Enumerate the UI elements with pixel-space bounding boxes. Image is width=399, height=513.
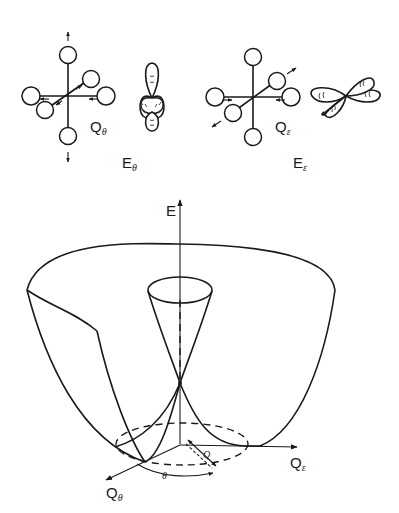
ligand-left: [22, 87, 40, 105]
ligand-left: [206, 88, 224, 106]
lower-sheet-right: [180, 383, 245, 446]
q-theta-axis-label: Qθ: [106, 484, 123, 503]
ligand-back: [83, 71, 100, 88]
orbital-lobe-bottom: [146, 112, 159, 131]
bowl-wall-right: [260, 290, 335, 446]
orbital-label-e-theta: Eθ: [122, 154, 137, 173]
orbital-label-e-epsilon: Eε: [293, 154, 307, 173]
angle-theta-arc: [137, 464, 213, 476]
q-epsilon-axis-label: Qε: [290, 454, 306, 473]
jahn-teller-diagram: Qθ Eθ Qε: [0, 0, 399, 513]
radius-label: Q: [203, 449, 211, 460]
ligand-top: [245, 49, 262, 66]
ligand-front: [225, 105, 242, 122]
octahedron-q-epsilon: Qε: [206, 49, 300, 146]
ligand-front: [37, 102, 54, 119]
ligand-right: [282, 88, 300, 106]
ligand-right: [97, 87, 115, 105]
bowl-rim-back: [27, 244, 335, 290]
arrow-back-out-icon: [287, 68, 296, 74]
bowl-cut-edge: [97, 331, 145, 462]
ligand-top: [60, 47, 77, 64]
ligand-bottom: [60, 128, 77, 145]
conical-intersection-point: [178, 381, 182, 385]
mode-label-q-epsilon: Qε: [275, 118, 291, 137]
cone-side-left: [148, 291, 180, 383]
bowl-wall-left: [27, 290, 145, 462]
orbital-e-theta: Eθ: [122, 63, 164, 173]
ligand-bottom: [245, 129, 262, 146]
cone-side-right: [180, 291, 212, 383]
ligand-back: [269, 73, 286, 90]
octahedron-q-theta: Qθ: [22, 32, 115, 162]
angle-label: θ: [162, 470, 167, 481]
orbital-e-epsilon: Eε: [293, 78, 380, 173]
arrow-front-out-icon: [212, 121, 221, 127]
energy-axis-label: E: [166, 202, 176, 219]
orbital-lobe-top: [146, 63, 159, 98]
radius-dimension-arrow: [188, 440, 216, 466]
potential-energy-surface: E Qε Qθ Q θ: [27, 200, 335, 503]
mode-label-q-theta: Qθ: [90, 118, 107, 137]
